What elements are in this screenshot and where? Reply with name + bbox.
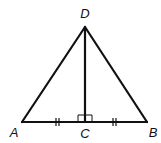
label-A: A	[9, 125, 19, 140]
segment-BD	[85, 27, 147, 122]
segment-AD	[22, 27, 85, 122]
triangle-diagram: D A C B	[0, 0, 161, 143]
diagram-svg: D A C B	[0, 0, 161, 143]
label-C: C	[80, 126, 90, 141]
label-D: D	[80, 6, 89, 21]
label-B: B	[149, 125, 158, 140]
